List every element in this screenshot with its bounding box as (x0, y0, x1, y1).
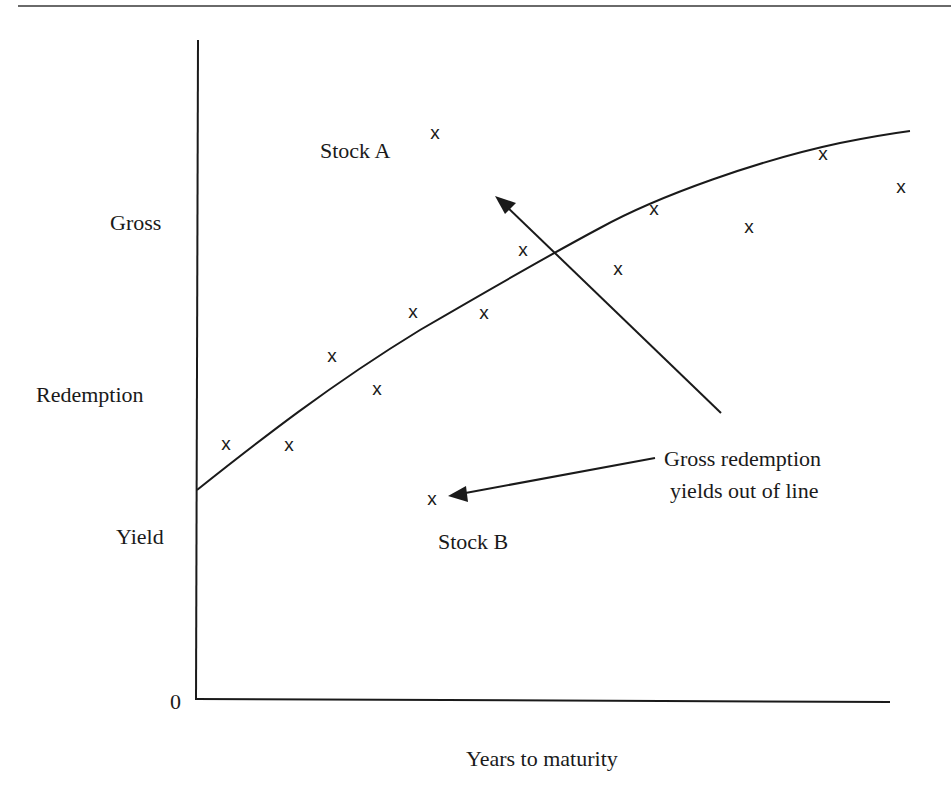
x-axis-label: Years to maturity (466, 748, 618, 770)
yield-curve (197, 131, 910, 490)
y-label-gross: Gross (110, 212, 161, 234)
x-axis (196, 699, 890, 702)
data-point-marker: x (744, 217, 754, 236)
data-point-marker: x (649, 199, 659, 218)
stock-a-marker: x (430, 123, 440, 142)
stock-b-label: Stock B (438, 531, 508, 553)
origin-label: 0 (170, 691, 181, 713)
data-point-marker: x (896, 177, 906, 196)
data-point-marker: x (818, 144, 828, 163)
data-point-marker: x (479, 303, 489, 322)
callout-line-2: yields out of line (670, 480, 818, 502)
stock-a-label: Stock A (320, 140, 390, 162)
callout-line-1: Gross redemption (664, 448, 821, 470)
data-point-marker: x (408, 302, 418, 321)
arrow-to-stock-b (460, 458, 655, 494)
y-label-redemption: Redemption (36, 384, 144, 406)
stock-b-marker: x (427, 489, 437, 508)
data-point-marker: x (518, 240, 528, 259)
data-point-marker: x (327, 346, 337, 365)
y-label-yield: Yield (116, 526, 164, 548)
arrow-to-stock-a (503, 203, 721, 413)
data-point-marker: x (372, 379, 382, 398)
data-point-marker: x (284, 435, 294, 454)
data-point-marker: x (221, 434, 231, 453)
arrowhead-icon (448, 486, 468, 502)
data-point-marker: x (613, 259, 623, 278)
y-axis (196, 40, 198, 700)
